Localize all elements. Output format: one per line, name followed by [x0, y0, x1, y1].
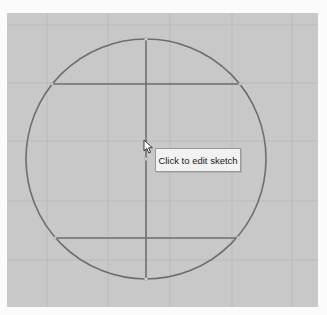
- sketch-viewport: Click to edit sketch: [0, 0, 327, 315]
- endpoint-marker[interactable]: [51, 83, 54, 86]
- arrow-pointer-icon: [143, 139, 155, 155]
- endpoint-marker[interactable]: [54, 237, 57, 240]
- endpoint-marker[interactable]: [144, 37, 147, 40]
- tooltip-text: Click to edit sketch: [158, 155, 237, 166]
- endpoint-marker[interactable]: [144, 277, 147, 280]
- tooltip: Click to edit sketch: [155, 148, 241, 172]
- endpoint-marker[interactable]: [237, 237, 240, 240]
- endpoint-marker[interactable]: [239, 83, 242, 86]
- center-point-marker[interactable]: [144, 157, 147, 160]
